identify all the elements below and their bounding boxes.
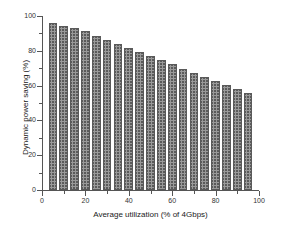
y-tick [37,51,42,52]
y-tick-minor [39,33,42,34]
x-tick-minor [64,191,65,194]
bar [59,26,68,190]
bar [146,56,155,191]
bar [157,60,166,190]
bar [135,52,144,190]
x-axis-title: Average utilization (% of 4Gbps) [42,210,259,219]
bar [211,81,220,190]
x-tick-label: 80 [204,197,228,204]
bar [70,28,79,190]
x-tick-minor [107,191,108,194]
y-tick-minor [39,103,42,104]
x-tick [172,191,173,196]
x-tick-minor [151,191,152,194]
y-tick [37,86,42,87]
y-tick [37,155,42,156]
bar [222,85,231,190]
y-axis-title: Dynamic power saving (%) [21,23,30,193]
y-tick-label: 100 [14,12,36,19]
y-tick-minor [39,138,42,139]
bar [233,89,242,190]
bar [92,36,101,191]
bars-layer [42,16,259,190]
bar [81,31,90,190]
bar [244,93,253,190]
bar [168,64,177,190]
x-tick [42,191,43,196]
x-tick-minor [237,191,238,194]
bar [179,69,188,190]
x-tick-label: 0 [30,197,54,204]
bar [190,73,199,190]
y-tick [37,16,42,17]
bar [103,40,112,191]
bar [114,44,123,191]
x-tick-label: 100 [247,197,271,204]
x-tick [129,191,130,196]
y-tick-minor [39,173,42,174]
bar-chart: 020406080100 020406080100 Dynamic power … [0,0,288,234]
x-tick-label: 20 [73,197,97,204]
bar [49,23,58,190]
bar [200,77,209,190]
x-tick [259,191,260,196]
y-tick [37,120,42,121]
x-tick [216,191,217,196]
x-tick-label: 60 [160,197,184,204]
x-tick-minor [194,191,195,194]
y-tick-minor [39,68,42,69]
x-tick [85,191,86,196]
x-tick-label: 40 [117,197,141,204]
bar [124,48,133,190]
